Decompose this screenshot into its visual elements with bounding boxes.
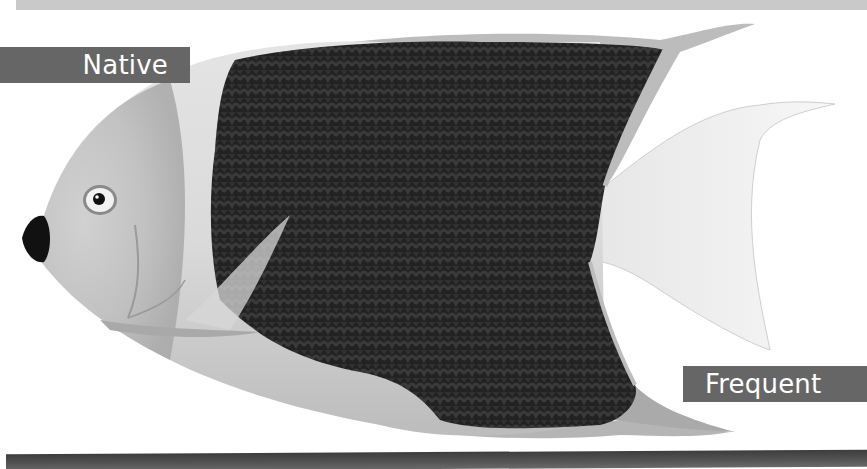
bottom-border-bar — [6, 450, 867, 469]
fish-mouth — [22, 216, 50, 263]
illustration-stage: Native Frequent — [0, 0, 867, 469]
label-frequent: Frequent — [683, 366, 867, 402]
label-native: Native — [0, 47, 190, 83]
fish-eye — [83, 185, 117, 215]
